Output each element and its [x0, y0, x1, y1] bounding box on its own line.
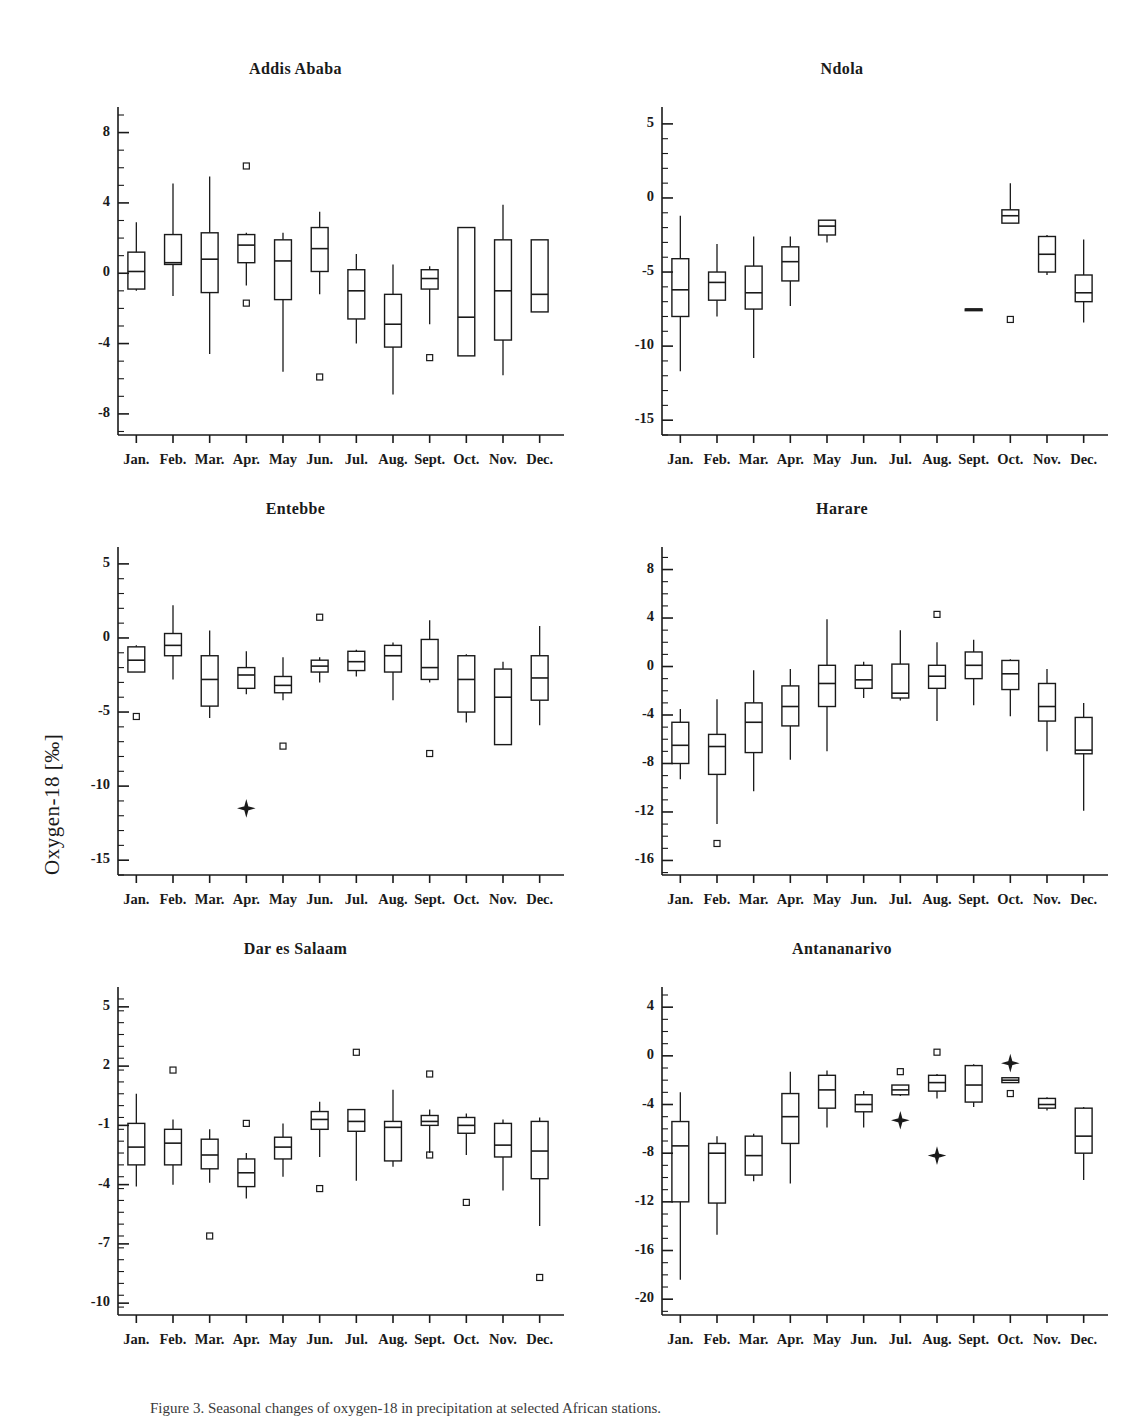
outlier-marker — [170, 1067, 176, 1073]
box-entebbe-sept — [421, 620, 438, 756]
outlier-marker — [353, 1049, 359, 1055]
outlier-marker — [317, 614, 323, 620]
outlier-marker — [243, 300, 249, 306]
plot-area-dar-es-salaam — [18, 940, 573, 1360]
box-dar-es-salaam-mar — [201, 1129, 218, 1239]
outlier-marker — [934, 611, 940, 617]
box-antananarivo-nov — [1039, 1097, 1056, 1110]
box-ndola-mar — [745, 236, 762, 357]
outlier-marker — [243, 163, 249, 169]
outlier-marker — [714, 840, 720, 846]
outlier-marker — [133, 713, 139, 719]
box-dar-es-salaam-aug — [385, 1090, 402, 1167]
outlier-marker — [243, 1120, 249, 1126]
box-antananarivo-dec — [1075, 1107, 1092, 1180]
box-antananarivo-may — [819, 1070, 836, 1127]
box-addis-ababa-aug — [385, 264, 402, 394]
box-antananarivo-feb — [709, 1136, 726, 1235]
box-antananarivo-oct — [1002, 1057, 1019, 1097]
box-harare-jan — [672, 709, 689, 779]
box-harare-mar — [745, 670, 762, 791]
box-entebbe-aug — [385, 642, 402, 700]
box-antananarivo-mar — [745, 1134, 762, 1181]
plot-area-entebbe — [18, 500, 573, 920]
box-ndola-apr — [782, 236, 799, 306]
box-harare-sept — [965, 640, 982, 705]
box-dar-es-salaam-apr — [238, 1120, 255, 1198]
box-harare-jun — [855, 662, 872, 698]
box-entebbe-jan — [128, 645, 145, 719]
outlier-marker — [207, 1233, 213, 1239]
box-addis-ababa-nov — [495, 205, 512, 376]
figure-caption: Figure 3. Seasonal changes of oxygen-18 … — [150, 1400, 661, 1417]
outlier-marker — [317, 1186, 323, 1192]
extreme-outlier-marker — [1004, 1057, 1017, 1070]
box-addis-ababa-jun — [311, 212, 328, 380]
box-harare-jul — [892, 630, 909, 700]
box-addis-ababa-jul — [348, 254, 365, 344]
outlier-marker — [427, 1071, 433, 1077]
box-antananarivo-aug — [929, 1049, 946, 1162]
box-dar-es-salaam-jul — [348, 1049, 365, 1180]
outlier-marker — [934, 1049, 940, 1055]
panel-addis-ababa: Addis Ababa840-4-8Jan.Feb.Mar.Apr.MayJun… — [18, 60, 573, 480]
box-dar-es-salaam-jan — [128, 1094, 145, 1187]
box-harare-dec — [1075, 703, 1092, 811]
box-entebbe-oct — [458, 654, 475, 722]
outlier-marker — [1007, 316, 1013, 322]
box-addis-ababa-dec — [531, 240, 548, 312]
box-antananarivo-jul — [892, 1069, 909, 1127]
box-entebbe-apr — [238, 651, 255, 815]
box-ndola-nov — [1039, 235, 1056, 275]
outlier-marker — [1007, 1091, 1013, 1097]
box-addis-ababa-jan — [128, 222, 145, 291]
box-addis-ababa-oct — [458, 228, 475, 356]
outlier-marker — [317, 374, 323, 380]
box-dar-es-salaam-oct — [458, 1114, 475, 1206]
box-addis-ababa-may — [275, 233, 292, 372]
box-ndola-feb — [709, 244, 726, 317]
plot-area-antananarivo — [562, 940, 1122, 1360]
outlier-marker — [427, 355, 433, 361]
box-entebbe-dec — [531, 626, 548, 725]
box-dar-es-salaam-nov — [495, 1119, 512, 1190]
panel-harare: Harare840-4-8-12-16Jan.Feb.Mar.Apr.MayJu… — [562, 500, 1122, 920]
box-antananarivo-jan — [672, 1092, 689, 1279]
box-harare-nov — [1039, 669, 1056, 751]
plot-area-addis-ababa — [18, 60, 573, 480]
extreme-outlier-marker — [931, 1149, 944, 1162]
box-antananarivo-sept — [965, 1064, 982, 1107]
outlier-marker — [280, 743, 286, 749]
figure-root: Addis Ababa840-4-8Jan.Feb.Mar.Apr.MayJun… — [0, 0, 1135, 1422]
box-dar-es-salaam-may — [275, 1123, 292, 1176]
box-entebbe-nov — [495, 662, 512, 745]
box-harare-apr — [782, 669, 799, 760]
box-addis-ababa-mar — [201, 177, 218, 355]
panel-dar-es-salaam: Dar es Salaam52-1-4-7-10Jan.Feb.Mar.Apr.… — [18, 940, 573, 1360]
box-entebbe-may — [275, 657, 292, 749]
box-entebbe-feb — [165, 605, 182, 679]
plot-area-ndola — [562, 60, 1122, 480]
extreme-outlier-marker — [894, 1114, 907, 1127]
box-dar-es-salaam-feb — [165, 1067, 182, 1185]
box-harare-may — [819, 619, 836, 751]
outlier-marker — [537, 1274, 543, 1280]
box-harare-oct — [1002, 659, 1019, 716]
box-addis-ababa-apr — [238, 163, 255, 306]
outlier-marker — [463, 1199, 469, 1205]
outlier-marker — [897, 1069, 903, 1075]
plot-area-harare — [562, 500, 1122, 920]
box-ndola-dec — [1075, 239, 1092, 322]
box-addis-ababa-sept — [421, 266, 438, 360]
box-dar-es-salaam-sept — [421, 1071, 438, 1158]
box-entebbe-mar — [201, 631, 218, 718]
panel-entebbe: EntebbeOxygen-18 [‰]50-5-10-15Jan.Feb.Ma… — [18, 500, 573, 920]
box-harare-aug — [929, 611, 946, 721]
box-addis-ababa-feb — [165, 184, 182, 297]
box-antananarivo-jun — [855, 1091, 872, 1128]
box-dar-es-salaam-jun — [311, 1102, 328, 1192]
box-ndola-may — [819, 220, 836, 242]
box-ndola-jan — [672, 216, 689, 372]
box-dar-es-salaam-dec — [531, 1117, 548, 1280]
box-antananarivo-apr — [782, 1072, 799, 1184]
